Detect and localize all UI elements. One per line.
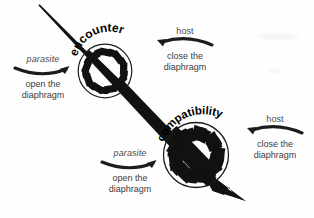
annotation-action-line1: close the (238, 139, 312, 150)
curved-arrow-right-icon (12, 64, 74, 79)
curved-arrow-left-icon (244, 124, 306, 139)
annotation-actor-label: host (238, 114, 312, 124)
annotation-action-line2: diaphragm (148, 62, 222, 73)
iris-compatibility (164, 123, 229, 188)
curved-arrow-left-icon (154, 36, 216, 51)
iris-encounter (78, 44, 132, 98)
annotation-action-line2: diaphragm (93, 184, 167, 195)
annotation-host-bottom: host close the diaphragm (238, 114, 312, 161)
annotation-action-line2: diaphragm (238, 150, 312, 161)
annotation-actor-label: parasite (6, 54, 80, 64)
annotation-parasite-bottom: parasite open the diaphragm (93, 148, 167, 195)
annotation-action-line1: open the (6, 79, 80, 90)
annotation-parasite-top: parasite open the diaphragm (6, 54, 80, 101)
curved-arrow-right-icon (99, 158, 161, 173)
figure-canvas: encounter (0, 0, 314, 218)
annotation-action-line1: open the (93, 173, 167, 184)
annotation-actor-label: host (148, 26, 222, 36)
annotation-action-line2: diaphragm (6, 90, 80, 101)
annotation-host-top: host close the diaphragm (148, 26, 222, 73)
annotation-actor-label: parasite (93, 148, 167, 158)
annotation-action-line1: close the (148, 51, 222, 62)
